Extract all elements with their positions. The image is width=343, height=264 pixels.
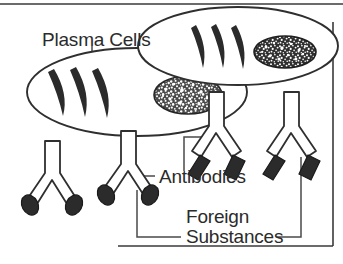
antibody-4 bbox=[263, 92, 320, 180]
antibody-y-body bbox=[267, 92, 316, 157]
antibody-1 bbox=[18, 141, 86, 218]
label-foreign-substances-line2: Substances bbox=[186, 226, 283, 247]
foreign-substance-diamond bbox=[263, 155, 285, 180]
foreign-substance-diamond bbox=[299, 155, 320, 180]
antibody-y-body bbox=[28, 141, 76, 204]
nucleus bbox=[254, 36, 316, 68]
plasma-cell-upper-right bbox=[138, 7, 338, 85]
label-antibodies: Antibodies bbox=[159, 166, 246, 187]
immunology-diagram: Plasma Cells Antibodies Foreign Substanc… bbox=[0, 0, 343, 264]
antibody-y-body bbox=[104, 131, 152, 194]
label-plasma-cells: Plasma Cells bbox=[42, 29, 150, 50]
nucleus-body bbox=[254, 36, 316, 68]
antibody-2 bbox=[94, 131, 162, 208]
label-foreign-substances-line1: Foreign bbox=[186, 206, 249, 227]
